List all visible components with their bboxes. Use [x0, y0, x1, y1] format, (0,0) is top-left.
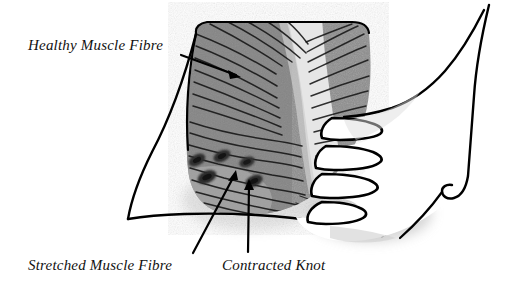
- leader-line-contracted-knot: [248, 186, 249, 252]
- muscle-diagram-svg: Healthy Muscle Fibre Stretched Muscle Fi…: [0, 0, 517, 281]
- illustration-figure: Healthy Muscle Fibre Stretched Muscle Fi…: [0, 0, 517, 281]
- label-contracted-knot-text: Contracted Knot: [222, 257, 326, 273]
- label-stretched-muscle-fibre-text: Stretched Muscle Fibre: [28, 257, 172, 273]
- label-healthy-muscle-fibre-text: Healthy Muscle Fibre: [27, 37, 163, 53]
